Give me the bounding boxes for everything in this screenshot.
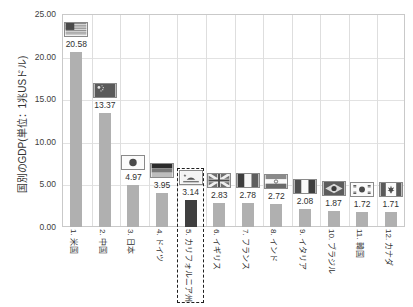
y-axis-tick-20.00: 20.00 (0, 52, 56, 62)
japan-flag-icon (121, 155, 145, 170)
bar-value-label-7: 2.78 (240, 190, 257, 200)
bar-group-1[interactable]: 20.58 (62, 14, 91, 227)
bar-9[interactable] (299, 209, 311, 227)
y-axis-tick-labels: 25.0020.0015.0010.005.000.00 (0, 0, 58, 307)
bar-group-2[interactable]: 13.37 (91, 14, 120, 227)
bar-group-11[interactable]: 1.72 (348, 14, 377, 227)
bar-group-5[interactable]: 3.14 (176, 14, 205, 227)
bar-2[interactable] (99, 113, 111, 227)
x-axis-label-5: 5. カリフォルニア州 (184, 229, 195, 302)
bar-group-8[interactable]: 2.72 (262, 14, 291, 227)
uk-flag-icon (207, 173, 231, 188)
bar-value-label-8: 2.72 (268, 191, 285, 201)
bar-7[interactable] (242, 203, 254, 227)
bar-8[interactable] (270, 204, 282, 227)
bar-1[interactable] (70, 52, 82, 227)
bar-group-7[interactable]: 2.78 (234, 14, 263, 227)
bar-value-label-4: 3.95 (154, 180, 171, 190)
x-axis-label-6: 6. イギリス (212, 229, 223, 270)
germany-flag-icon (150, 163, 174, 178)
x-axis-tick-labels: 1. 米国2. 中国3. 日本4. ドイツ5. カリフォルニア州6. イギリス7… (62, 229, 405, 307)
bar-group-4[interactable]: 3.95 (148, 14, 177, 227)
bar-group-10[interactable]: 1.87 (319, 14, 348, 227)
bar-6[interactable] (213, 203, 225, 227)
x-axis-label-9: 9. イタリア (298, 229, 309, 270)
california-flag-icon (179, 170, 203, 185)
y-axis-tick-15.00: 15.00 (0, 94, 56, 104)
bar-value-label-2: 13.37 (94, 100, 115, 110)
south-korea-flag-icon (350, 182, 374, 197)
x-axis-label-11: 11. 韓国 (355, 229, 366, 258)
india-flag-icon (264, 174, 288, 189)
france-flag-icon (236, 173, 260, 188)
bar-group-9[interactable]: 2.08 (291, 14, 320, 227)
bar-group-12[interactable]: 1.71 (376, 14, 405, 227)
bar-value-label-5: 3.14 (182, 187, 199, 197)
bar-11[interactable] (356, 212, 368, 227)
y-axis-tick-5.00: 5.00 (0, 179, 56, 189)
canada-flag-icon (379, 182, 403, 197)
bar-12[interactable] (385, 212, 397, 227)
x-axis-label-10: 10. ブラジル (327, 229, 338, 274)
y-axis-tick-0.00: 0.00 (0, 222, 56, 232)
x-axis-label-8: 8. インド (269, 229, 280, 262)
bar-5[interactable] (185, 200, 197, 227)
usa-flag-icon (64, 22, 88, 37)
x-axis-label-7: 7. フランス (241, 229, 252, 270)
brazil-flag-icon (322, 181, 346, 196)
bar-value-label-11: 1.72 (354, 199, 371, 209)
bar-value-label-6: 2.83 (211, 190, 228, 200)
bar-3[interactable] (127, 185, 139, 227)
bar-value-label-10: 1.87 (325, 198, 342, 208)
bar-value-label-9: 2.08 (297, 196, 314, 206)
y-axis-tick-10.00: 10.00 (0, 137, 56, 147)
bar-group-3[interactable]: 4.97 (119, 14, 148, 227)
china-flag-icon (93, 83, 117, 98)
bar-group-6[interactable]: 2.83 (205, 14, 234, 227)
x-axis-label-3: 3. 日本 (126, 229, 137, 254)
bar-value-label-3: 4.97 (125, 172, 142, 182)
gdp-bar-chart: 国別のGDP(単位：1兆USドル) 25.0020.0015.0010.005.… (0, 0, 413, 307)
x-axis-label-2: 2. 中国 (98, 229, 109, 254)
y-axis-tick-25.00: 25.00 (0, 9, 56, 19)
x-axis-label-12: 12. カナダ (384, 229, 395, 266)
x-axis-label-1: 1. 米国 (69, 229, 80, 254)
bar-10[interactable] (328, 211, 340, 227)
bar-value-label-12: 1.71 (382, 199, 399, 209)
bar-series: 20.5813.374.973.953.142.832.782.722.081.… (62, 14, 405, 227)
x-axis-label-4: 4. ドイツ (155, 229, 166, 262)
bar-value-label-1: 20.58 (66, 39, 87, 49)
bar-4[interactable] (156, 193, 168, 227)
italy-flag-icon (293, 179, 317, 194)
